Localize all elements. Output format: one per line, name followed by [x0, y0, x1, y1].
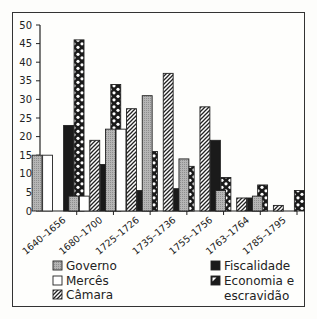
y-tick-label: 5 — [26, 187, 32, 198]
legend: Governo Mercês Câmara Fiscalidade Econom… — [53, 259, 294, 303]
bar-economia — [294, 191, 304, 211]
y-tick-label: 45 — [19, 38, 32, 49]
legend-swatch-camara — [53, 290, 62, 299]
y-tick-label: 50 — [19, 20, 32, 31]
bar-governo — [142, 96, 152, 211]
legend-label-governo: Governo — [66, 259, 117, 273]
y-axis: 05101520253035404550 — [19, 20, 297, 217]
bar-mercês — [116, 129, 126, 211]
legend-label-fiscalidade: Fiscalidade — [224, 259, 290, 273]
y-tick-label: 0 — [26, 206, 32, 217]
legend-label-camara: Câmara — [66, 288, 113, 302]
y-tick-label: 20 — [19, 131, 32, 142]
bar-governo — [69, 196, 79, 211]
legend-label-escravidao: escravidão — [224, 289, 289, 303]
bar-chart: 05101520253035404550 1640–16561680–17001… — [0, 0, 317, 319]
bar-câmara — [163, 73, 173, 211]
bar-governo — [32, 155, 42, 211]
legend-swatch-governo — [53, 261, 62, 270]
x-axis-labels: 1640–16561680–17001725–17261735–17361755… — [20, 214, 288, 257]
bar-câmara — [200, 107, 210, 211]
bar-câmara — [273, 205, 283, 211]
y-tick-label: 15 — [19, 150, 32, 161]
y-tick-label: 30 — [19, 94, 32, 105]
bar-governo — [106, 129, 116, 211]
bar-mercês — [43, 155, 53, 211]
bar-governo — [252, 196, 262, 211]
bar-câmara — [127, 109, 137, 211]
bars — [32, 40, 304, 211]
y-tick-label: 35 — [19, 75, 32, 86]
legend-swatch-economia — [211, 276, 220, 285]
bar-mercês — [79, 196, 89, 211]
legend-swatch-merces — [53, 276, 62, 285]
y-tick-label: 10 — [19, 168, 32, 179]
bar-economia — [74, 40, 84, 211]
y-tick-label: 40 — [19, 57, 32, 68]
bar-câmara — [90, 140, 100, 211]
legend-label-merces: Mercês — [66, 274, 109, 288]
legend-swatch-fiscalidade — [211, 261, 220, 270]
bar-câmara — [237, 198, 247, 211]
y-tick-label: 25 — [19, 113, 32, 124]
bar-governo — [179, 159, 189, 211]
legend-label-economia: Economia e — [224, 274, 294, 288]
bar-governo — [216, 191, 226, 211]
